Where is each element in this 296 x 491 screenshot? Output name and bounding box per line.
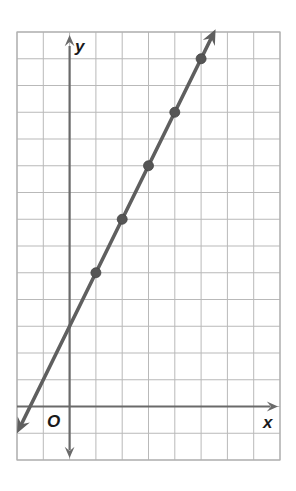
x-axis-label: x [262, 413, 274, 432]
coordinate-graph: x y O [0, 0, 296, 491]
graph-line [21, 38, 211, 424]
data-point [117, 214, 127, 224]
data-point [144, 161, 154, 171]
data-point [91, 268, 101, 278]
y-axis-label: y [74, 37, 86, 56]
data-point [196, 54, 206, 64]
grid-lines [17, 32, 280, 460]
origin-label: O [47, 412, 60, 431]
plotted-line [17, 29, 216, 433]
data-point [170, 107, 180, 117]
